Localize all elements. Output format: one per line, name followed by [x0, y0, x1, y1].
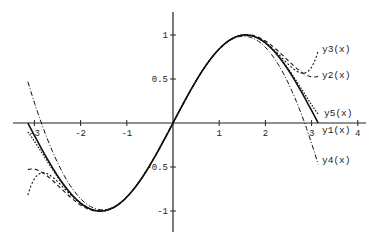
label-y1: y1(x): [322, 125, 351, 136]
x-tick-label: 1: [216, 129, 221, 139]
x-tick-label: 2: [263, 129, 268, 139]
x-tick-label: -2: [75, 129, 86, 139]
plot-area: -3-2-1123410.5-0.5-1 y3(x) y2(x) y5(x) y…: [0, 0, 379, 244]
y-tick-label: 0.5: [152, 75, 168, 85]
y-tick-label: -1: [157, 207, 168, 217]
axes: -3-2-1123410.5-0.5-1: [13, 12, 366, 232]
x-tick-label: 4: [355, 129, 360, 139]
label-y2: y2(x): [322, 70, 351, 81]
label-y3: y3(x): [322, 44, 351, 55]
label-y4: y4(x): [322, 155, 351, 166]
curve-labels: y3(x) y2(x) y5(x) y1(x) y4(x): [322, 44, 353, 166]
label-y5: y5(x): [324, 108, 353, 119]
x-tick-label: -1: [121, 129, 132, 139]
y-tick-label: 1: [163, 31, 168, 41]
